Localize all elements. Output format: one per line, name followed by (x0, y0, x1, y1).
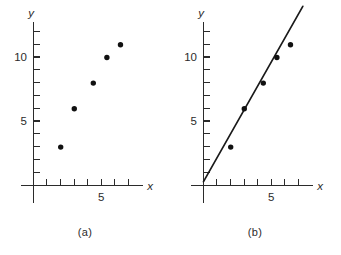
panel-a: 10 5 5 y x (0, 0, 170, 255)
data-points-b (228, 42, 293, 150)
y-ticks-b (204, 31, 211, 172)
data-point (261, 80, 266, 85)
y-axis-label-a: y (27, 7, 35, 19)
x-ticks-a (47, 179, 129, 186)
y-tick-label-5-b: 5 (191, 115, 197, 127)
least-squares-fit-line (204, 6, 303, 181)
x-tick-label-5-b: 5 (268, 191, 274, 203)
data-point (104, 55, 109, 60)
y-ticks-a (34, 31, 41, 172)
data-point (288, 42, 293, 47)
data-point (118, 42, 123, 47)
data-points-a (58, 42, 123, 150)
x-axis-label-b: x (316, 180, 324, 192)
y-tick-label-10-a: 10 (14, 51, 27, 63)
panel-a-plot: 10 5 5 y x (0, 0, 170, 255)
figure-scatter-and-fit: 10 5 5 y x (0, 0, 341, 255)
data-point (58, 144, 63, 149)
panel-b-plot: 10 5 5 y x (170, 0, 340, 255)
data-point (274, 55, 279, 60)
data-point (72, 106, 77, 111)
data-point (242, 106, 247, 111)
panel-b: 10 5 5 y x (170, 0, 340, 255)
caption-panel-a: (a) (0, 226, 170, 238)
y-tick-label-10-b: 10 (184, 51, 197, 63)
y-tick-label-5-a: 5 (21, 115, 27, 127)
y-axis-label-b: y (197, 7, 205, 19)
x-axis-label-a: x (146, 180, 154, 192)
data-point (228, 144, 233, 149)
caption-panel-b: (b) (170, 226, 340, 238)
x-tick-label-5-a: 5 (98, 191, 104, 203)
x-ticks-b (217, 179, 299, 186)
data-point (91, 80, 96, 85)
